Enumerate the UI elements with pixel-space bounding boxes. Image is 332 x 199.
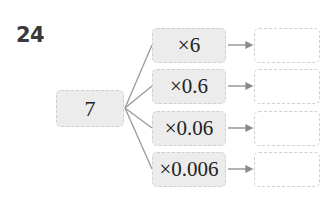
operation-box-3: ×0.06 xyxy=(152,111,226,146)
start-value-box: 7 xyxy=(56,90,124,127)
operation-box-2: ×0.6 xyxy=(152,69,226,104)
operation-box-4: ×0.006 xyxy=(152,152,226,187)
answer-box-1[interactable] xyxy=(254,28,320,63)
answer-box-2[interactable] xyxy=(254,69,320,104)
operation-box-1: ×6 xyxy=(152,28,226,63)
answer-box-4[interactable] xyxy=(254,152,320,187)
answer-box-3[interactable] xyxy=(254,111,320,146)
